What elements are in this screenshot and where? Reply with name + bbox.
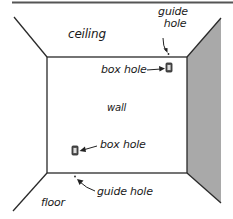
wall-label: wall: [107, 102, 126, 114]
ceiling-left-edge: [14, 17, 47, 57]
box-hole-top-label: box hole: [101, 64, 147, 76]
right-side-wall: [187, 18, 221, 203]
ceiling-label: ceiling: [68, 28, 106, 40]
guide-hole-top-label-line2: hole: [155, 18, 191, 30]
guide-hole-bottom-dot: [74, 176, 76, 178]
guide-hole-top-dot: [168, 53, 170, 55]
guide-hole-top-arrowhead-icon: [164, 48, 168, 53]
guide-hole-bottom-arrow-icon: [80, 182, 95, 191]
floor-label: floor: [41, 197, 65, 209]
box-hole-bottom-label: box hole: [100, 139, 146, 151]
box-hole-top-box-inner-icon: [168, 65, 171, 70]
guide-hole-top-label: guide hole: [155, 6, 191, 30]
guide-hole-bottom-label: guide hole: [97, 186, 153, 198]
box-hole-bottom-box-inner-icon: [74, 148, 77, 153]
